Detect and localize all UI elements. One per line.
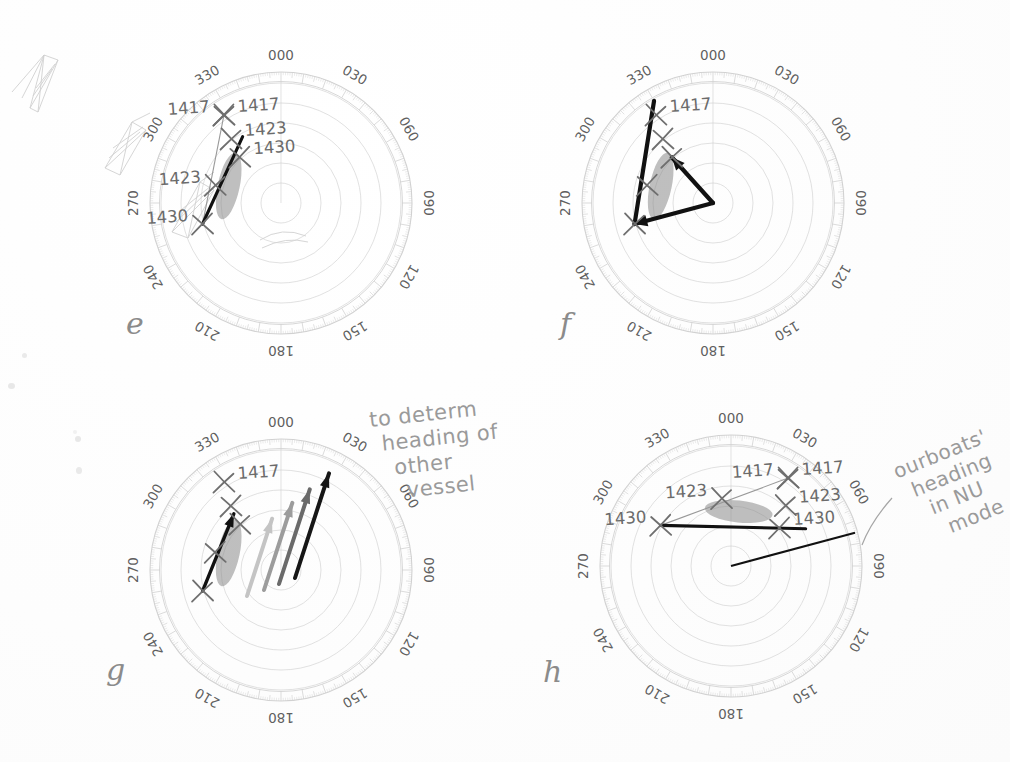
compass-graduation (219, 87, 221, 90)
compass-graduation (691, 688, 692, 691)
compass-graduation (832, 249, 835, 250)
compass-graduation (656, 459, 659, 464)
compass-graduation (243, 692, 244, 695)
compass-graduation (740, 328, 741, 331)
compass-graduation (669, 679, 671, 682)
compass-graduation (368, 107, 370, 109)
compass-graduation (853, 603, 856, 604)
compass-graduation (806, 290, 808, 292)
compass-graduation (824, 644, 831, 650)
compass-graduation (624, 107, 626, 109)
compass-graduation (249, 76, 250, 79)
bearing-label: 150 (772, 318, 802, 345)
compass-graduation (634, 98, 636, 101)
compass-graduation (602, 543, 611, 545)
compass-graduation (645, 467, 647, 469)
compass-graduation (386, 264, 394, 269)
compass-graduation (199, 302, 201, 304)
compass-graduation (394, 508, 397, 510)
compass-graduation (781, 311, 783, 314)
compass-graduation (765, 83, 766, 86)
compass-graduation (245, 444, 246, 447)
compass-graduation (848, 513, 851, 514)
compass-graduation (153, 174, 156, 175)
compass-graduation (609, 612, 612, 613)
compass-graduation (806, 119, 813, 125)
compass-graduation (212, 459, 214, 462)
compass-graduation (202, 465, 204, 468)
bearing-label: 090 (421, 190, 437, 216)
compass-graduation (394, 630, 397, 632)
compass-graduation (610, 616, 613, 617)
compass-graduation (387, 274, 390, 276)
compass-graduation (399, 519, 402, 520)
plot-mark-x (192, 583, 212, 602)
compass-graduation (217, 88, 219, 91)
bearing-label: 000 (718, 410, 744, 426)
compass-graduation (312, 694, 313, 697)
compass-graduation (166, 139, 169, 141)
compass-graduation (384, 278, 387, 280)
compass-graduation (799, 674, 801, 677)
compass-graduation (402, 536, 407, 537)
compass-graduation (310, 695, 311, 698)
plot-time-label: 1430 (253, 136, 296, 158)
compass-graduation (187, 479, 189, 481)
compass-graduation (406, 541, 409, 542)
compass-graduation (228, 320, 229, 323)
bearing-label: 150 (790, 681, 820, 708)
bearing-label: 210 (642, 681, 672, 708)
compass-graduation (686, 328, 687, 331)
compass-graduation (592, 251, 595, 252)
bearing-label: 300 (139, 481, 166, 511)
compass-graduation (333, 450, 334, 453)
compass-graduation (637, 475, 639, 477)
compass-graduation (584, 227, 587, 228)
compass-graduation (603, 273, 606, 275)
compass-graduation (195, 666, 197, 668)
compass-graduation (405, 538, 408, 539)
compass-graduation (841, 632, 844, 634)
compass-graduation (616, 115, 618, 117)
compass-graduation (401, 591, 410, 593)
heading-arrow-4 (295, 473, 329, 578)
compass-graduation (593, 255, 596, 256)
compass-graduation (690, 323, 692, 332)
compass-graduation (360, 100, 362, 103)
compass-graduation (256, 328, 257, 331)
compass-graduation (826, 141, 829, 143)
compass-graduation (360, 304, 362, 307)
compass-graduation (790, 305, 792, 308)
compass-graduation (766, 689, 767, 692)
compass-graduation (389, 638, 392, 640)
compass-graduation (361, 302, 363, 304)
own-ship-heading-line (731, 533, 855, 566)
compass-graduation (168, 138, 176, 143)
compass-graduation (619, 292, 621, 294)
compass-graduation (367, 665, 369, 667)
compass-graduation (684, 75, 685, 78)
polar-plot-h: 0000300600901201501802102402703003301417… (575, 410, 887, 722)
compass-graduation (337, 85, 338, 88)
compass-graduation (238, 446, 239, 449)
compass-graduation (773, 687, 774, 690)
bearing-label: 060 (396, 114, 423, 144)
compass-graduation (368, 474, 370, 476)
compass-graduation (400, 156, 403, 157)
compass-graduation (853, 526, 856, 527)
compass-graduation (669, 450, 671, 453)
compass-graduation (376, 656, 378, 658)
compass-graduation (677, 77, 678, 80)
compass-graduation (399, 152, 402, 153)
compass-graduation (155, 534, 158, 535)
compass-graduation (677, 326, 678, 329)
compass-graduation (831, 154, 834, 155)
compass-graduation (621, 636, 624, 638)
polar-plot-e: 0000300600901201501802102402703003301417… (125, 47, 437, 359)
bearing-label: 090 (421, 557, 437, 583)
compass-graduation (160, 154, 163, 155)
compass-graduation (852, 598, 857, 599)
compass-graduation (649, 315, 651, 318)
compass-graduation (814, 122, 817, 124)
compass-graduation (592, 152, 595, 153)
